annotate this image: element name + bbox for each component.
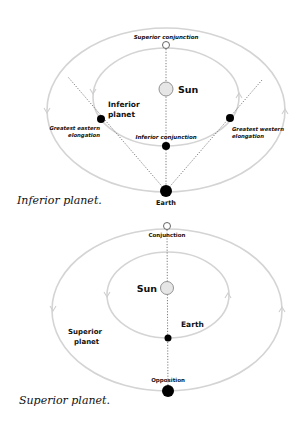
superior-conjunction-label: Superior conjunction [134, 34, 199, 41]
earth-orbit [107, 252, 229, 338]
superior-planet-caption: Superior planet. [19, 394, 110, 407]
greatest-western-label-line1: Greatest western [232, 126, 284, 132]
orbit-arrow-icon [225, 293, 231, 298]
conjunction-label: Conjunction [149, 232, 186, 239]
superior-conjunction-marker [163, 42, 170, 49]
earth-marker [160, 185, 172, 197]
greatest-eastern-label-line1: Greatest eastern [49, 125, 100, 131]
superior-planet-diagram: Conjunction Sun Earth Superior planet Op… [19, 223, 285, 408]
conjunction-marker [164, 223, 171, 230]
opposition-planet [162, 385, 174, 397]
opposition-label: Opposition [151, 377, 185, 384]
inferior-planet-label-line1: Inferior [108, 100, 140, 109]
diagram-canvas: Superior conjunction Sun Inferior planet… [0, 0, 303, 425]
eastern-elongation-planet [97, 115, 105, 123]
orbit-arrow-icon [50, 306, 56, 311]
inferior-planet-label-line2: planet [108, 110, 135, 119]
earth-label: Earth [181, 320, 204, 329]
inferior-conjunction-planet [162, 142, 170, 150]
sun-label: Sun [178, 84, 199, 95]
sun-icon [161, 282, 174, 295]
inferior-planet-caption: Inferior planet. [16, 194, 102, 207]
western-elongation-planet [226, 114, 234, 122]
greatest-eastern-label-line2: elongation [68, 132, 100, 139]
opposition-line [167, 230, 168, 392]
superior-planet-label-line2: planet [74, 338, 100, 346]
superior-planet-label-line1: Superior [68, 328, 102, 336]
inferior-conjunction-label: Inferior conjunction [135, 134, 196, 141]
earth-label: Earth [156, 199, 176, 207]
greatest-western-label-line2: elongation [232, 133, 264, 140]
sun-icon [159, 82, 173, 96]
inferior-planet-diagram: Superior conjunction Sun Inferior planet… [16, 28, 288, 207]
sun-label: Sun [137, 283, 158, 294]
earth-marker [165, 335, 172, 342]
